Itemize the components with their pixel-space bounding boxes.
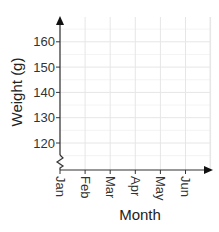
x-tick-label: Jun [178,176,193,197]
y-axis-ticks: 120130140150160 [33,34,60,150]
chart: 120130140150160 JanFebMarAprMayJun Weigh… [0,0,219,232]
x-tick-label: Feb [78,176,93,198]
x-axis-title: Month [119,206,161,223]
y-tick-label: 130 [33,110,55,125]
x-tick-label: Mar [103,176,118,199]
y-tick-label: 140 [33,85,55,100]
y-tick-label: 150 [33,60,55,75]
y-tick-label: 120 [33,136,55,151]
y-tick-label: 160 [33,34,55,49]
y-axis-title: Weight (g) [8,58,25,127]
x-tick-label: May [153,176,168,201]
grid-lines [60,17,211,170]
x-tick-label: Apr [128,176,143,197]
x-tick-label: Jan [53,176,68,197]
x-axis-ticks: JanFebMarAprMayJun [53,170,194,201]
axes [56,16,213,174]
